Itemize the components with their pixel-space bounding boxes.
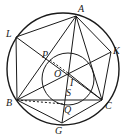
circumcircle	[7, 13, 119, 125]
point-label-G: G	[55, 125, 62, 136]
segment-KC	[102, 52, 111, 100]
point-label-O: O	[54, 68, 61, 79]
segment-LB	[16, 37, 17, 100]
segment-KB	[17, 52, 111, 100]
point-label-P: P	[41, 49, 48, 60]
point-label-L: L	[5, 28, 12, 39]
point-label-A: A	[77, 3, 85, 14]
point-label-B: B	[6, 97, 12, 108]
geometry-diagram: ALKPOISBQCG	[0, 0, 126, 139]
segment-AC	[76, 16, 102, 100]
point-label-Q: Q	[64, 104, 72, 115]
point-label-C: C	[105, 100, 112, 111]
segment-AL	[16, 16, 76, 37]
point-label-K: K	[112, 45, 121, 56]
point-label-S: S	[66, 87, 71, 98]
